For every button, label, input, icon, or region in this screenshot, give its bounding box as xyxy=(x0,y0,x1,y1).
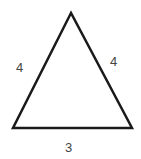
base-label: 3 xyxy=(65,140,72,155)
triangle-diagram: 4 4 3 xyxy=(0,0,141,159)
left-side-label: 4 xyxy=(16,60,23,75)
triangle xyxy=(13,13,132,128)
right-side-label: 4 xyxy=(110,54,117,69)
